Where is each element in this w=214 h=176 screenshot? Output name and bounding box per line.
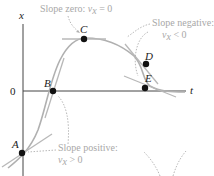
label-A: A [11, 138, 19, 150]
annotation-slope-negative-line1: Slope negative: [152, 17, 214, 28]
label-E: E [144, 72, 152, 84]
arrow-negative-D [127, 24, 150, 37]
label-D: D [144, 50, 153, 62]
annotation-slope-positive-line2: vx > 0 [58, 154, 83, 167]
annotation-slope-zero: Slope zero: vx = 0 [40, 3, 112, 16]
t-axis-label: t [190, 84, 194, 96]
arrow-bottom-left [144, 152, 160, 176]
point-C [81, 36, 87, 42]
label-C: C [80, 23, 88, 35]
x-t-graph: x t 0 A B C D E Slope zero: vx = 0 Slope… [0, 0, 214, 176]
point-E [142, 85, 148, 91]
origin-label: 0 [10, 85, 16, 97]
point-B [50, 88, 56, 94]
arrow-positive-A [28, 150, 56, 152]
arrow-bottom-right [173, 151, 186, 176]
label-B: B [44, 77, 51, 89]
x-axis-label: x [18, 9, 24, 21]
annotation-slope-negative-line2: vx < 0 [162, 29, 187, 42]
tangent-A [2, 134, 52, 167]
point-A [19, 150, 25, 156]
arrow-positive-B [58, 96, 69, 144]
annotation-slope-positive-line1: Slope positive: [58, 142, 118, 153]
